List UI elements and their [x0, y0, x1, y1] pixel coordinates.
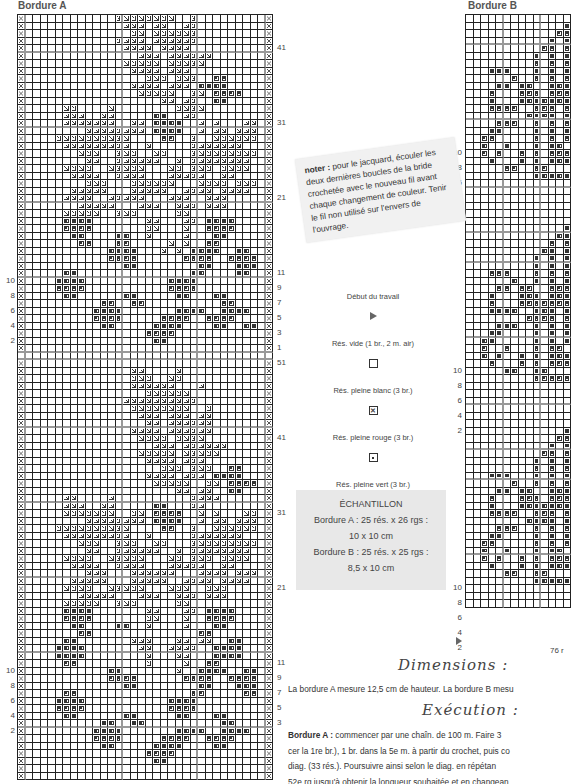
chart-cell [108, 128, 116, 136]
chart-cell [168, 638, 176, 646]
chart-cell [534, 330, 542, 338]
chart-cell [146, 83, 154, 91]
chart-cell [198, 548, 206, 556]
chart-cell [213, 150, 221, 158]
chart-cell [131, 720, 139, 728]
chart-cell [251, 398, 259, 406]
legend-item-start: Début du travail [298, 290, 448, 337]
chart-cell [243, 705, 251, 713]
chart-cell [526, 233, 534, 241]
chart-cell [481, 143, 489, 151]
chart-cell [26, 405, 34, 413]
chart-cell [123, 240, 131, 248]
chart-cell [131, 323, 139, 331]
chart-cell [474, 165, 482, 173]
chart-cell [48, 75, 56, 83]
chart-cell [176, 713, 184, 721]
chart-cell [489, 495, 497, 503]
chart-cell [243, 323, 251, 331]
chart-cell [191, 105, 199, 113]
chart-cell [48, 540, 56, 548]
chart-cell [71, 225, 79, 233]
chart-cell [496, 60, 504, 68]
chart-cell [221, 735, 229, 743]
chart-cell [564, 360, 572, 368]
chart-cell [511, 518, 519, 526]
chart-cell [26, 623, 34, 631]
chart-cell [146, 75, 154, 83]
chart-cell [213, 323, 221, 331]
chart-cell [198, 503, 206, 511]
chart-cell [183, 593, 191, 601]
chart-cell [266, 203, 274, 211]
chart-cell [258, 555, 266, 563]
chart-cell [251, 180, 259, 188]
chart-cell [78, 765, 86, 773]
chart-cell [108, 90, 116, 98]
chart-cell [153, 510, 161, 518]
chart-cell [228, 68, 236, 76]
chart-cell [526, 210, 534, 218]
row-number-label: 4 [11, 321, 15, 330]
chart-cell [243, 300, 251, 308]
chart-cell [86, 375, 94, 383]
chart-cell [108, 300, 116, 308]
chart-cell [213, 690, 221, 698]
chart-cell [153, 15, 161, 23]
chart-cell [18, 233, 26, 241]
chart-cell [466, 210, 474, 218]
chart-cell [48, 45, 56, 53]
chart-cell [243, 53, 251, 61]
chart-cell [221, 233, 229, 241]
chart-cell [191, 690, 199, 698]
chart-cell [93, 255, 101, 263]
chart-cell [78, 668, 86, 676]
chart-cell [138, 458, 146, 466]
chart-cell [138, 698, 146, 706]
chart-cell [146, 503, 154, 511]
chart-cell [123, 563, 131, 571]
dot-square-icon [369, 453, 378, 462]
chart-cell [56, 728, 64, 736]
chart-cell [489, 165, 497, 173]
chart-cell [108, 210, 116, 218]
chart-cell [236, 600, 244, 608]
chart-cell [116, 278, 124, 286]
chart-cell [258, 278, 266, 286]
chart-cell [116, 743, 124, 751]
chart-cell [108, 150, 116, 158]
chart-cell [33, 285, 41, 293]
chart-cell [228, 638, 236, 646]
chart-cell [48, 15, 56, 23]
chart-cell [176, 83, 184, 91]
chart-cell [18, 690, 26, 698]
chart-cell [168, 563, 176, 571]
chart-cell [549, 15, 557, 23]
chart-cell [78, 120, 86, 128]
chart-cell [519, 533, 527, 541]
chart-cell [56, 203, 64, 211]
chart-cell [116, 338, 124, 346]
chart-cell [161, 495, 169, 503]
chart-cell [243, 585, 251, 593]
chart-cell [26, 188, 34, 196]
chart-cell [481, 255, 489, 263]
chart-cell [78, 98, 86, 106]
chart-cell [18, 495, 26, 503]
chart-cell [564, 435, 572, 443]
chart-cell [534, 518, 542, 526]
chart-cell [138, 638, 146, 646]
chart-cell [161, 83, 169, 91]
chart-cell [481, 188, 489, 196]
chart-cell [86, 698, 94, 706]
chart-cell [63, 375, 71, 383]
chart-cell [153, 308, 161, 316]
chart-cell [33, 368, 41, 376]
chart-cell [213, 465, 221, 473]
chart-cell [198, 105, 206, 113]
chart-cell [101, 330, 109, 338]
chart-cell [108, 683, 116, 691]
chart-cell [474, 113, 482, 121]
chart-cell [108, 368, 116, 376]
chart-cell [564, 128, 572, 136]
